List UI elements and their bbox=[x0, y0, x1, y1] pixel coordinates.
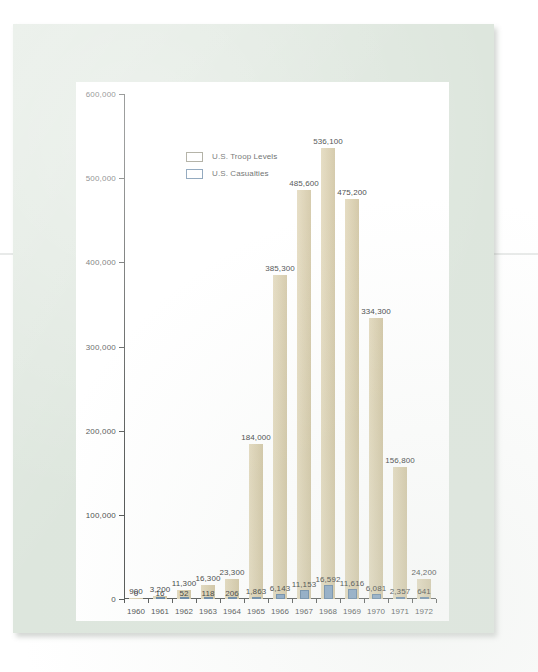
y-tick-label: 200,000 bbox=[86, 426, 116, 435]
y-tick bbox=[119, 94, 124, 95]
troop-value-label: 536,100 bbox=[306, 137, 350, 146]
casualty-value-label: 641 bbox=[404, 587, 444, 596]
troop-value-label: 334,300 bbox=[354, 307, 398, 316]
x-tick bbox=[196, 599, 197, 603]
x-tick bbox=[436, 599, 437, 603]
casualty-bar bbox=[276, 594, 285, 599]
troop-value-label: 24,200 bbox=[402, 568, 446, 577]
y-tick bbox=[119, 431, 124, 432]
troop-bar bbox=[249, 444, 263, 599]
troop-bar bbox=[129, 598, 143, 599]
troop-value-label: 156,800 bbox=[378, 456, 422, 465]
x-tick-label: 1969 bbox=[340, 607, 364, 616]
x-tick-label: 1970 bbox=[364, 607, 388, 616]
x-tick bbox=[388, 599, 389, 603]
x-tick-label: 1960 bbox=[124, 607, 148, 616]
scanned-image: U.S. Troop Levels U.S. Casualties 600,00… bbox=[0, 0, 538, 672]
troop-value-label: 23,300 bbox=[210, 568, 254, 577]
x-tick bbox=[148, 599, 149, 603]
x-tick-label: 1962 bbox=[172, 607, 196, 616]
y-tick bbox=[119, 347, 124, 348]
x-tick-label: 1961 bbox=[148, 607, 172, 616]
y-tick-label: 600,000 bbox=[86, 90, 116, 99]
document-page: U.S. Troop Levels U.S. Casualties 600,00… bbox=[13, 24, 494, 633]
x-tick-label: 1967 bbox=[292, 607, 316, 616]
x-tick-label: 1968 bbox=[316, 607, 340, 616]
y-tick bbox=[119, 515, 124, 516]
x-tick-label: 1963 bbox=[196, 607, 220, 616]
x-tick bbox=[268, 599, 269, 603]
y-tick bbox=[119, 262, 124, 263]
x-tick bbox=[172, 599, 173, 603]
y-tick bbox=[119, 178, 124, 179]
x-tick-label: 1972 bbox=[412, 607, 436, 616]
troop-bar bbox=[345, 199, 359, 599]
x-tick bbox=[244, 599, 245, 603]
y-tick-label: 500,000 bbox=[86, 174, 116, 183]
chart-panel: U.S. Troop Levels U.S. Casualties 600,00… bbox=[76, 82, 449, 621]
y-tick-label: 100,000 bbox=[86, 510, 116, 519]
troop-bar bbox=[393, 467, 407, 599]
x-tick bbox=[412, 599, 413, 603]
plot-area: 600,000500,000400,000300,000200,000100,0… bbox=[124, 94, 436, 599]
casualty-bar bbox=[252, 597, 261, 599]
troop-bar bbox=[321, 148, 335, 599]
x-tick bbox=[364, 599, 365, 603]
x-tick-label: 1971 bbox=[388, 607, 412, 616]
casualty-bar bbox=[300, 590, 309, 599]
x-tick bbox=[220, 599, 221, 603]
y-tick-label: 300,000 bbox=[86, 342, 116, 351]
y-tick-label: 400,000 bbox=[86, 258, 116, 267]
x-tick bbox=[124, 599, 125, 603]
x-tick bbox=[316, 599, 317, 603]
x-tick bbox=[340, 599, 341, 603]
casualty-bar bbox=[396, 597, 405, 599]
troop-bar bbox=[273, 275, 287, 599]
troop-value-label: 475,200 bbox=[330, 188, 374, 197]
troop-bar bbox=[297, 190, 311, 599]
troop-value-label: 485,600 bbox=[282, 179, 326, 188]
x-tick-label: 1965 bbox=[244, 607, 268, 616]
casualty-bar bbox=[420, 597, 429, 599]
troop-value-label: 184,000 bbox=[234, 433, 278, 442]
x-tick-label: 1966 bbox=[268, 607, 292, 616]
troop-value-label: 385,300 bbox=[258, 264, 302, 273]
y-axis-line bbox=[124, 94, 125, 599]
x-tick bbox=[292, 599, 293, 603]
x-tick-label: 1964 bbox=[220, 607, 244, 616]
